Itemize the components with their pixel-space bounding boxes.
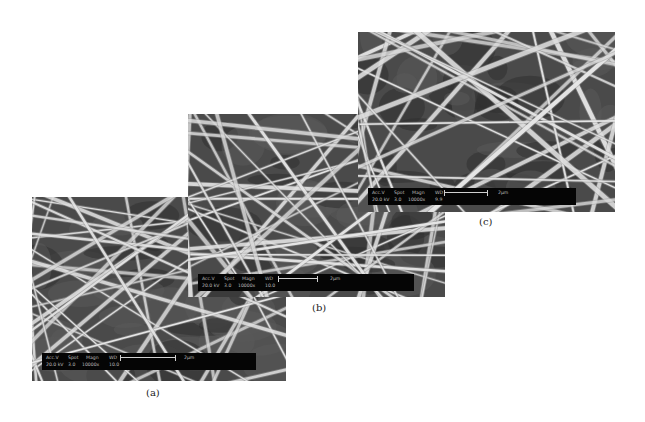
value-acc-v: 20.0 kV: [202, 282, 220, 289]
scale-bar: [278, 278, 318, 281]
label-spot: Spot: [224, 275, 234, 282]
scale-bar: [444, 192, 488, 195]
scale-label: 2μm: [330, 275, 340, 282]
value-wd: 10.0: [265, 282, 275, 289]
sem-image-c: Acc.V Spot Magn WD 2μm 20.0 kV 3.0 10000…: [358, 32, 615, 212]
caption-b: (b): [312, 302, 326, 313]
value-wd: 10.0: [109, 361, 119, 368]
label-wd: WD: [109, 354, 117, 361]
value-spot: 3.0: [394, 196, 401, 203]
value-magn: 10000x: [238, 282, 255, 289]
scale-bar: [120, 357, 176, 360]
label-magn: Magn: [242, 275, 255, 282]
label-magn: Magn: [412, 189, 425, 196]
label-spot: Spot: [68, 354, 78, 361]
label-magn: Magn: [86, 354, 99, 361]
caption-a: (a): [146, 387, 160, 398]
caption-c: (c): [479, 216, 492, 227]
scale-label: 2μm: [184, 354, 194, 361]
value-acc-v: 20.0 kV: [46, 361, 64, 368]
label-spot: Spot: [394, 189, 404, 196]
value-magn: 10000x: [82, 361, 99, 368]
label-wd: WD: [435, 189, 443, 196]
value-spot: 3.0: [68, 361, 75, 368]
label-acc-v: Acc.V: [372, 189, 385, 196]
label-acc-v: Acc.V: [46, 354, 59, 361]
value-magn: 10000x: [408, 196, 425, 203]
nanofiber-texture: [358, 32, 615, 212]
sem-info-bar: Acc.V Spot Magn WD 2μm 20.0 kV 3.0 10000…: [42, 353, 256, 370]
sem-info-bar: Acc.V Spot Magn WD 2μm 20.0 kV 3.0 10000…: [198, 274, 414, 291]
label-wd: WD: [265, 275, 273, 282]
label-acc-v: Acc.V: [202, 275, 215, 282]
value-acc-v: 20.0 kV: [372, 196, 390, 203]
scale-label: 2μm: [498, 189, 508, 196]
value-spot: 3.0: [224, 282, 231, 289]
sem-info-bar: Acc.V Spot Magn WD 2μm 20.0 kV 3.0 10000…: [368, 188, 576, 205]
value-wd: 9.9: [435, 196, 442, 203]
